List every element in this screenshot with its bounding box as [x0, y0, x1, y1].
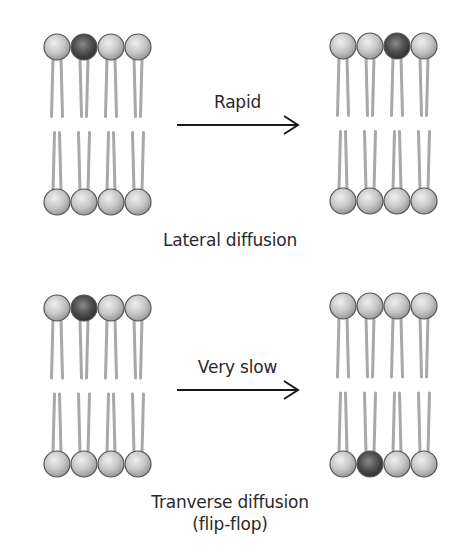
lipid-tail	[61, 319, 63, 378]
lipid-tail	[80, 319, 82, 378]
lipid-tail	[142, 133, 144, 192]
phospholipid-head	[384, 451, 410, 477]
lipid-tail	[107, 394, 109, 453]
lipid-tail	[88, 394, 90, 453]
lipid-tail	[393, 132, 395, 191]
lipid-tail	[400, 132, 402, 191]
lipid-tail	[419, 132, 421, 191]
lipid-tail	[133, 133, 135, 192]
lipid-tail	[114, 133, 116, 192]
phospholipid-head	[44, 295, 70, 321]
phospholipid-head	[98, 189, 124, 215]
phospholipid-head	[98, 451, 124, 477]
lipid-tail	[107, 133, 109, 192]
phospholipid-head	[44, 189, 70, 215]
lipid-tail	[52, 319, 54, 378]
lipid-tail	[428, 393, 430, 453]
lipid-tail	[114, 394, 116, 453]
caption-lateral-diffusion: Lateral diffusion	[130, 230, 330, 250]
phospholipid-head	[125, 34, 151, 60]
phospholipid-head	[98, 295, 124, 321]
lipid-tail	[339, 132, 341, 191]
lipid-tail	[392, 317, 394, 377]
phospholipid-head	[357, 33, 383, 59]
phospholipid-head-marked	[384, 33, 410, 59]
phospholipid-head	[44, 451, 70, 477]
lipid-tail	[393, 393, 395, 453]
bilayer-transverse-after	[330, 293, 437, 477]
phospholipid-head	[44, 34, 70, 60]
lipid-tail	[88, 133, 90, 192]
lipid-tail	[373, 317, 375, 377]
lipid-tail	[373, 57, 375, 116]
lipid-tail	[366, 57, 368, 116]
lipid-tail	[401, 57, 403, 116]
lipid-tail	[420, 317, 422, 377]
lipid-tail	[374, 393, 376, 453]
lipid-tail	[60, 133, 62, 192]
lipid-tail	[115, 319, 117, 378]
lipid-tail	[141, 319, 143, 378]
phospholipid-head	[330, 451, 356, 477]
bilayer-transverse-before	[44, 295, 151, 477]
phospholipid-head	[98, 34, 124, 60]
lipid-tail	[338, 57, 340, 116]
phospholipid-head	[125, 451, 151, 477]
phospholipid-head	[411, 188, 437, 214]
phospholipid-head-marked	[71, 295, 97, 321]
lipid-tail	[400, 393, 402, 453]
phospholipid-head	[125, 295, 151, 321]
membrane-diffusion-diagram	[0, 0, 461, 557]
arrow-very-slow-icon	[177, 381, 298, 399]
lipid-tail	[106, 58, 108, 117]
lipid-tail	[428, 132, 430, 191]
lipid-tail	[374, 132, 376, 191]
caption-flip-flop: (flip-flop)	[110, 514, 350, 534]
phospholipid-head	[411, 293, 437, 319]
lipid-tail	[366, 317, 368, 377]
phospholipid-head	[71, 189, 97, 215]
arrow-rapid-icon	[177, 116, 298, 134]
lipid-tail	[427, 317, 429, 377]
lipid-tail	[53, 133, 55, 192]
lipid-tail	[347, 57, 349, 116]
phospholipid-head	[357, 188, 383, 214]
arrow-label-rapid: Rapid	[177, 92, 298, 112]
phospholipid-head	[411, 451, 437, 477]
lipid-tail	[401, 317, 403, 377]
phospholipid-head	[330, 293, 356, 319]
lipid-tail	[53, 394, 55, 453]
lipid-tail	[141, 58, 143, 117]
phospholipid-head	[330, 188, 356, 214]
lipid-tail	[347, 317, 349, 377]
lipid-tail	[346, 132, 348, 191]
bilayer-lateral-after	[330, 33, 437, 214]
lipid-tail	[134, 58, 136, 117]
lipid-tail	[79, 133, 81, 192]
phospholipid-head-marked	[71, 34, 97, 60]
phospholipid-head	[330, 33, 356, 59]
lipid-tail	[392, 57, 394, 116]
phospholipid-head	[411, 33, 437, 59]
caption-transverse-diffusion: Tranverse diffusion	[110, 492, 350, 512]
phospholipid-head	[125, 189, 151, 215]
lipid-tail	[52, 58, 54, 117]
lipid-tail	[87, 319, 89, 378]
phospholipid-head	[357, 293, 383, 319]
lipid-tail	[365, 132, 367, 191]
lipid-tail	[338, 317, 340, 377]
bilayer-lateral-before	[44, 34, 151, 215]
lipid-tail	[61, 58, 63, 117]
lipid-tail	[339, 393, 341, 453]
lipid-tail	[419, 393, 421, 453]
lipid-tail	[346, 393, 348, 453]
lipid-tail	[427, 57, 429, 116]
lipid-tail	[106, 319, 108, 378]
lipid-tail	[87, 58, 89, 117]
arrow-label-very-slow: Very slow	[167, 357, 308, 377]
lipid-tail	[80, 58, 82, 117]
lipid-tail	[133, 394, 135, 453]
phospholipid-head	[71, 451, 97, 477]
lipid-tail	[420, 57, 422, 116]
phospholipid-head-marked	[357, 451, 383, 477]
